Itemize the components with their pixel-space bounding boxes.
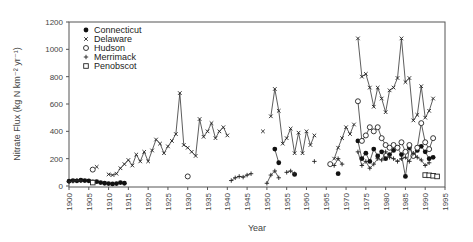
plot-border [69, 22, 445, 187]
connecticut-marker-icon [336, 171, 341, 176]
delaware-marker-icon [131, 164, 135, 168]
delaware-marker-icon [138, 160, 142, 164]
merrimack-marker-icon [356, 150, 360, 154]
y-tick-label: 800 [50, 73, 64, 82]
connecticut-marker-icon [383, 156, 388, 161]
delaware-marker-icon [332, 157, 336, 161]
legend-label-penobscot: Penobscot [94, 61, 137, 71]
hudson-marker-icon [363, 133, 368, 138]
merrimack-marker-icon [284, 170, 288, 174]
delaware-marker-icon [162, 151, 166, 155]
y-axis: 020040060080010001200 [45, 18, 69, 191]
hudson-marker-icon [415, 145, 420, 150]
connecticut-marker-icon [431, 155, 436, 160]
hudson-marker-icon [367, 125, 372, 130]
legend-delaware-marker-icon [84, 37, 88, 41]
series-line-delaware [334, 125, 354, 159]
delaware-marker-icon [352, 123, 356, 127]
hudson-marker-icon [423, 140, 428, 145]
merrimack-marker-icon [245, 173, 249, 177]
merrimack-marker-icon [265, 181, 269, 185]
delaware-marker-icon [340, 136, 344, 140]
plot-frame [69, 22, 445, 187]
y-tick-label: 400 [50, 127, 64, 136]
delaware-marker-icon [218, 130, 222, 134]
hudson-marker-icon [431, 136, 436, 141]
series-line-merrimack [267, 171, 279, 183]
delaware-marker-icon [313, 134, 317, 138]
penobscot-marker-icon [435, 174, 440, 179]
hudson-marker-icon [185, 174, 190, 179]
connecticut-marker-icon [367, 159, 372, 164]
x-tick-label: 1970 [342, 192, 351, 210]
delaware-marker-icon [150, 149, 154, 153]
delaware-marker-icon [344, 125, 348, 129]
y-tick-label: 1000 [45, 45, 63, 54]
delaware-marker-icon [142, 150, 146, 154]
hudson-marker-icon [399, 140, 404, 145]
delaware-marker-icon [170, 139, 174, 143]
hudson-marker-icon [419, 121, 424, 126]
delaware-marker-icon [348, 132, 352, 136]
x-tick-label: 1995 [441, 192, 450, 210]
series-line-delaware [271, 89, 315, 153]
hudson-marker-icon [395, 145, 400, 150]
x-tick-label: 1955 [283, 192, 292, 210]
connecticut-marker-icon [272, 147, 277, 152]
delaware-marker-icon [222, 125, 226, 129]
legend: ConnecticutDelawareHudsonMerrimackPenobs… [84, 25, 143, 71]
y-axis-title: Nitrate Flux (kg N km⁻² yr⁻¹) [12, 47, 22, 161]
legend-hudson-marker-icon [84, 46, 89, 51]
x-tick-label: 1985 [401, 192, 410, 210]
legend-item-penobscot: Penobscot [84, 61, 137, 71]
nitrate-flux-chart: 020040060080010001200 190019051910191519… [0, 0, 473, 242]
delaware-marker-icon [115, 172, 119, 176]
y-tick-label: 0 [59, 182, 64, 191]
hudson-marker-icon [371, 129, 376, 134]
hudson-marker-icon [379, 136, 384, 141]
delaware-marker-icon [119, 166, 123, 170]
delaware-marker-icon [166, 145, 170, 149]
merrimack-marker-icon [249, 172, 253, 176]
delaware-marker-icon [95, 165, 99, 169]
delaware-marker-icon [127, 158, 131, 162]
hudson-marker-icon [90, 167, 95, 172]
delaware-marker-icon [206, 130, 210, 134]
y-tick-label: 200 [50, 155, 64, 164]
legend-penobscot-marker-icon [84, 64, 89, 69]
hudson-marker-icon [375, 125, 380, 130]
legend-connecticut-marker-icon [84, 28, 89, 33]
x-tick-label: 1945 [243, 192, 252, 210]
connecticut-marker-icon [379, 149, 384, 154]
delaware-marker-icon [134, 153, 138, 157]
delaware-marker-icon [226, 134, 230, 138]
merrimack-marker-icon [379, 158, 383, 162]
hudson-marker-icon [427, 147, 432, 152]
delaware-marker-icon [190, 150, 194, 154]
delaware-marker-icon [146, 160, 150, 164]
connecticut-marker-icon [371, 147, 376, 152]
x-axis: 1900190519101915192019251930193519401945… [65, 187, 450, 211]
merrimack-marker-icon [277, 176, 281, 180]
connecticut-marker-icon [276, 160, 281, 165]
delaware-marker-icon [285, 136, 289, 140]
x-tick-label: 1925 [164, 192, 173, 210]
x-tick-label: 1940 [223, 192, 232, 210]
delaware-marker-icon [336, 146, 340, 150]
y-tick-label: 1200 [45, 18, 63, 27]
connecticut-marker-icon [363, 151, 368, 156]
x-tick-label: 1935 [204, 192, 213, 210]
legend-merrimack-marker-icon [84, 55, 88, 59]
connecticut-marker-icon [403, 174, 408, 179]
hudson-marker-icon [407, 143, 412, 148]
x-tick-label: 1930 [184, 192, 193, 210]
delaware-marker-icon [123, 162, 127, 166]
x-tick-label: 1920 [144, 192, 153, 210]
x-tick-label: 1905 [85, 192, 94, 210]
hudson-marker-icon [403, 149, 408, 154]
x-tick-label: 1980 [382, 192, 391, 210]
hudson-marker-icon [359, 138, 364, 143]
delaware-marker-icon [158, 142, 162, 146]
merrimack-marker-icon [241, 175, 245, 179]
x-tick-label: 1950 [263, 192, 272, 210]
